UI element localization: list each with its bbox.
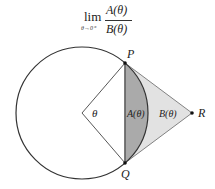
point-q: [123, 161, 127, 165]
label-region-a: A(θ): [126, 108, 145, 120]
point-r: [190, 111, 194, 115]
label-p: P: [126, 47, 135, 61]
radius-oq: [82, 113, 125, 163]
label-theta: θ: [92, 107, 98, 119]
label-q: Q: [121, 167, 130, 181]
radius-op: [82, 63, 125, 113]
geometry-diagram: P Q R θ A(θ) B(θ): [0, 0, 215, 189]
label-region-b: B(θ): [159, 108, 177, 120]
label-r: R: [197, 106, 206, 120]
point-p: [123, 61, 127, 65]
